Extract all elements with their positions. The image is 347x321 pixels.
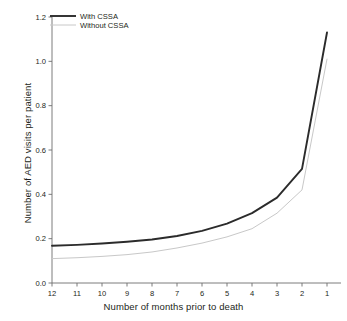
series-line-without-cssa [52, 59, 327, 259]
x-tick-label: 6 [192, 289, 212, 298]
x-tick-label: 8 [142, 289, 162, 298]
y-tick-label: 0.6 [22, 146, 46, 155]
legend-label-without-cssa: Without CSSA [80, 21, 129, 30]
x-tick-label: 2 [292, 289, 312, 298]
x-axis-ticks [52, 283, 327, 287]
x-tick-label: 9 [117, 289, 137, 298]
series-line-with-cssa [52, 33, 327, 246]
line-chart-plot [0, 0, 347, 321]
x-tick-label: 11 [67, 289, 87, 298]
y-tick-label: 0.8 [22, 101, 46, 110]
y-tick-label: 1.2 [22, 13, 46, 22]
x-axis-title: Number of months prior to death [0, 301, 347, 312]
y-tick-label: 0.0 [22, 279, 46, 288]
y-tick-label: 1.0 [22, 57, 46, 66]
x-tick-label: 7 [167, 289, 187, 298]
x-tick-label: 12 [42, 289, 62, 298]
chart-container: With CSSA Without CSSA Number of months … [0, 0, 347, 321]
x-tick-label: 5 [217, 289, 237, 298]
x-tick-label: 4 [242, 289, 262, 298]
legend-label-with-cssa: With CSSA [80, 12, 118, 21]
y-tick-label: 0.2 [22, 234, 46, 243]
data-series-group [52, 33, 327, 259]
x-tick-label: 1 [317, 289, 337, 298]
x-tick-label: 10 [92, 289, 112, 298]
y-tick-label: 0.4 [22, 190, 46, 199]
legend-swatches [50, 16, 76, 25]
y-axis-ticks [49, 17, 53, 283]
x-tick-label: 3 [267, 289, 287, 298]
